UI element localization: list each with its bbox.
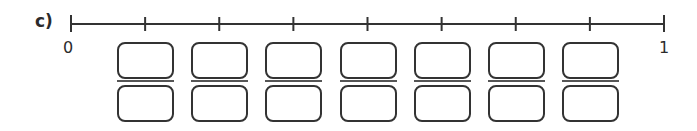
numerator-input[interactable] — [340, 42, 397, 79]
numerator-input[interactable] — [265, 42, 322, 79]
denominator-input[interactable] — [340, 85, 397, 122]
denominator-input[interactable] — [414, 85, 471, 122]
fraction-answer — [414, 42, 471, 122]
fraction-bar — [265, 80, 322, 82]
end-label: 1 — [659, 38, 669, 57]
start-label: 0 — [63, 38, 73, 57]
fraction-answer — [340, 42, 397, 122]
denominator-input[interactable] — [562, 85, 619, 122]
numerator-input[interactable] — [191, 42, 248, 79]
numerator-input[interactable] — [414, 42, 471, 79]
denominator-input[interactable] — [117, 85, 174, 122]
fraction-bar — [488, 80, 545, 82]
numerator-input[interactable] — [562, 42, 619, 79]
numerator-input[interactable] — [488, 42, 545, 79]
fraction-bar — [117, 80, 174, 82]
fraction-answer — [488, 42, 545, 122]
denominator-input[interactable] — [191, 85, 248, 122]
denominator-input[interactable] — [488, 85, 545, 122]
fraction-answer — [265, 42, 322, 122]
fraction-answer — [562, 42, 619, 122]
fraction-bar — [562, 80, 619, 82]
fraction-bar — [191, 80, 248, 82]
fraction-bar — [340, 80, 397, 82]
denominator-input[interactable] — [265, 85, 322, 122]
fraction-answer — [117, 42, 174, 122]
fraction-answer — [191, 42, 248, 122]
fraction-bar — [414, 80, 471, 82]
numerator-input[interactable] — [117, 42, 174, 79]
